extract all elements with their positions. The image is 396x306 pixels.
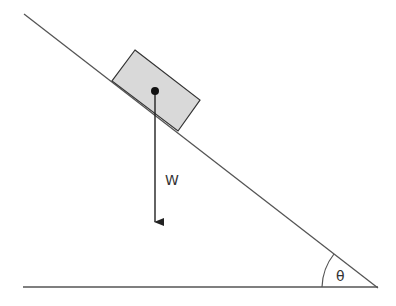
incline-diagram	[0, 0, 396, 306]
incline-surface	[24, 14, 378, 288]
weight-label: W	[165, 172, 179, 188]
angle-label: θ	[336, 268, 345, 284]
center-of-mass-dot	[151, 87, 159, 95]
angle-arc	[322, 254, 334, 287]
